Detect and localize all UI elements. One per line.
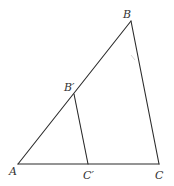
faint-mark [131,55,135,60]
label-c: C [155,169,164,182]
triangle-diagram: B B′ A C′ C [0,0,174,186]
label-b: B [122,8,131,21]
label-b-prime: B′ [63,81,75,94]
segment-bp-cp [74,94,88,164]
label-c-prime: C′ [83,169,94,182]
label-a: A [8,165,17,178]
segment-bc [131,21,159,164]
